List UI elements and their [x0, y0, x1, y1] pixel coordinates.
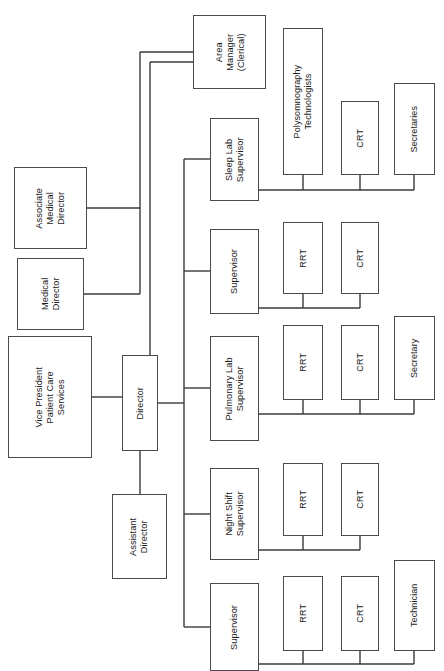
org-node-crt-sleep-lab[interactable]: CRT: [341, 101, 379, 175]
org-node-label: Director: [135, 387, 146, 419]
org-node-label: RRT: [298, 249, 309, 268]
org-node-vice-president-patient-care-services[interactable]: Vice President Patient Care Services: [8, 336, 92, 458]
org-node-supervisor-respiratory[interactable]: Supervisor: [210, 229, 259, 314]
org-node-label: Area Manager (Clerical): [213, 33, 246, 71]
org-node-label: Supervisor: [229, 249, 240, 294]
org-node-label: Night Shift Supervisor: [224, 492, 246, 537]
org-node-associate-medical-director[interactable]: Associate Medical Director: [14, 167, 87, 249]
org-node-label: CRT: [355, 490, 366, 509]
org-node-label: Pulmonary Lab Supervisor: [224, 357, 246, 420]
org-node-label: RRT: [298, 490, 309, 509]
org-node-label: Assistant Director: [129, 517, 151, 555]
org-node-crt-night-shift[interactable]: CRT: [341, 463, 379, 536]
org-node-crt-pulmonary-lab[interactable]: CRT: [341, 325, 379, 400]
org-node-label: Polysomnography Technologists: [292, 65, 313, 139]
org-node-label: CRT: [355, 353, 366, 372]
org-node-sleep-lab-supervisor[interactable]: Sleep Lab Supervisor: [210, 118, 259, 201]
org-node-rrt-night-shift[interactable]: RRT: [283, 463, 323, 536]
org-node-label: CRT: [355, 129, 366, 148]
org-node-label: Medical Director: [40, 278, 62, 311]
org-node-area-manager-clerical[interactable]: Area Manager (Clerical): [193, 15, 266, 89]
org-node-rrt-pulmonary-lab[interactable]: RRT: [283, 325, 323, 400]
org-node-rrt-supervisor-general[interactable]: RRT: [283, 576, 323, 651]
org-node-assistant-director[interactable]: Assistant Director: [112, 494, 167, 579]
org-node-crt-supervisor-general[interactable]: CRT: [341, 576, 379, 651]
org-node-night-shift-supervisor[interactable]: Night Shift Supervisor: [210, 468, 259, 560]
org-node-polysomnography-technologists[interactable]: Polysomnography Technologists: [283, 28, 323, 175]
org-node-label: Secretaries: [409, 106, 420, 153]
org-node-secretary-pulmonary-lab[interactable]: Secretary: [394, 316, 435, 400]
org-node-label: CRT: [355, 249, 366, 268]
org-node-label: Secretary: [409, 338, 420, 377]
org-node-label: RRT: [298, 604, 309, 623]
org-node-supervisor-general[interactable]: Supervisor: [210, 583, 259, 671]
org-node-crt-supervisor-respiratory[interactable]: CRT: [341, 222, 379, 294]
org-node-director[interactable]: Director: [122, 355, 158, 451]
org-node-medical-director[interactable]: Medical Director: [17, 258, 84, 330]
org-node-secretaries[interactable]: Secretaries: [394, 83, 435, 175]
org-node-label: Vice President Patient Care Services: [34, 367, 67, 427]
org-node-label: Supervisor: [229, 605, 240, 650]
org-node-rrt-supervisor-respiratory[interactable]: RRT: [283, 222, 323, 294]
org-node-pulmonary-lab-supervisor[interactable]: Pulmonary Lab Supervisor: [210, 336, 259, 441]
org-node-technician[interactable]: Technician: [394, 560, 435, 651]
org-node-label: Technician: [409, 584, 420, 628]
org-node-label: CRT: [355, 604, 366, 623]
org-node-label: Associate Medical Director: [34, 188, 67, 229]
org-node-label: RRT: [298, 353, 309, 372]
org-chart: Area Manager (Clerical)Associate Medical…: [0, 0, 444, 671]
org-node-label: Sleep Lab Supervisor: [224, 137, 246, 182]
